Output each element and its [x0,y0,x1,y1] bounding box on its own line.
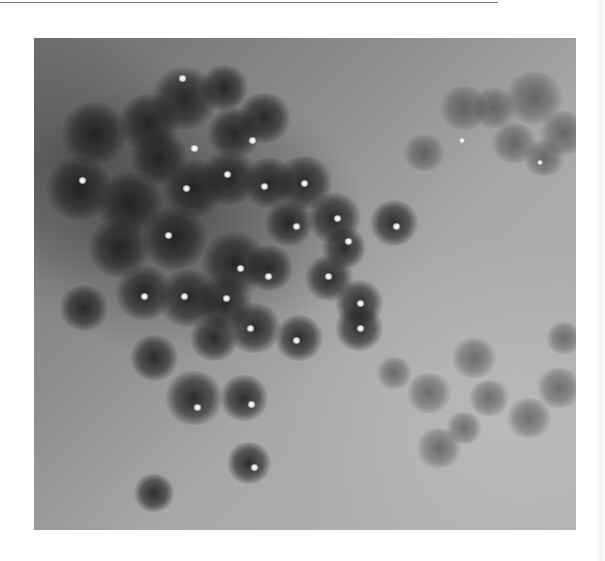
highlight [222,295,231,302]
highlight [459,138,465,143]
faint-papule [405,373,453,413]
faint-papule [535,368,576,408]
faint-papule [467,380,510,416]
highlight [193,404,202,411]
page-edge [597,0,605,561]
papule [59,285,110,331]
highlight [164,232,173,239]
papule [244,245,295,291]
faint-papule [375,357,413,389]
papule [164,371,224,426]
papule [226,442,272,484]
papule [219,375,270,421]
highlight [260,183,269,190]
papule [60,102,129,165]
faint-papule [450,338,498,378]
highlight [247,401,256,408]
papule [129,335,180,381]
highlight [344,238,353,245]
faint-papule [522,140,565,176]
papule [133,474,174,512]
papule [189,315,240,361]
highlight [333,215,342,222]
highlight [246,325,255,332]
highlight [537,160,543,165]
highlight [180,293,189,300]
highlight [392,223,401,230]
highlight [190,145,199,152]
highlight [236,265,245,272]
highlight [250,464,259,471]
highlight [300,180,309,187]
highlight [182,185,191,192]
highlight [264,273,273,280]
faint-papule [402,135,445,171]
highlight [223,171,232,178]
faint-papule [445,412,483,444]
papule [140,207,209,270]
highlight [292,337,301,344]
highlight [356,325,365,332]
highlight [248,137,257,144]
skin-photograph [34,38,576,530]
highlight [78,177,87,184]
highlight [178,75,187,82]
top-rule [0,2,498,3]
highlight [324,273,333,280]
highlight [356,300,365,307]
highlight [140,293,149,300]
highlight [292,223,301,230]
faint-papule [545,322,576,354]
